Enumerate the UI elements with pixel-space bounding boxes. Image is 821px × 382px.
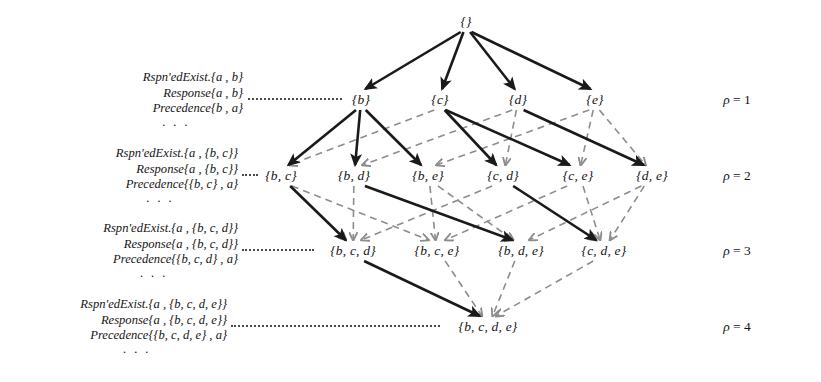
lattice-node-empty-set: {} [460,14,471,30]
constraint-formula-rho-3: Rspn'edExist.{a , {b, c, d}}Response{a ,… [103,221,238,284]
edge-dashed-c-to-bc [290,110,435,165]
edge-dashed-bc-to-bcd [290,186,346,240]
constraint-line: Rspn'edExist.{a , {b, c}} [116,146,238,162]
lattice-node-de: {d, e} [636,168,668,184]
edge-dashed-bd-to-bcd [353,186,354,240]
lattice-node-cd: {c, d} [487,168,519,184]
edge-solid-cd-to-cde [513,186,596,240]
edge-solid-b-to-be [366,110,421,165]
constraint-ellipsis: · · · [80,344,227,361]
edge-solid-b-to-bc [288,110,356,165]
edge-solid-root-to-d [470,32,515,89]
edge-dashed-be-to-bce [430,186,436,240]
constraint-formula-rho-2: Rspn'edExist.{a , {b, c}}Response{a , {b… [116,146,238,209]
constraint-line: Rspn'edExist.{a , {b, c, d, e}} [80,297,227,313]
constraint-line: Rspn'edExist.{a , b} [143,70,243,86]
edge-dashed-d-to-cd [505,110,516,165]
leader-dots-rho-4 [231,325,440,329]
page-bleed-artifact [60,352,63,364]
edge-solid-bc-to-bcd [290,186,346,240]
edge-dashed-e-to-ce [581,110,594,165]
edge-dashed-cde-to-bcde [496,261,593,316]
edge-solid-bcd-to-bcde [364,261,480,316]
constraint-line: Precedence{{b, c, d} , a} [103,252,238,268]
constraint-formula-rho-1: Rspn'edExist.{a , b}Response{a , b}Prece… [143,70,243,133]
rank-label-rho-1: ρ = 1 [723,92,751,108]
lattice-node-cde: {c, d, e} [582,243,627,259]
lattice-figure: {}{b}{c}{d}{e}{b, c}{b, d}{b, e}{c, d}{c… [0,0,821,382]
edge-dashed-e-to-be [437,110,590,165]
constraint-line: Response{a , {b, c, d}} [103,237,238,253]
lattice-node-bcde: {b, c, d, e} [459,319,518,335]
edge-dashed-bde-to-bcde [493,261,515,316]
lattice-node-d: {d} [509,92,527,108]
lattice-node-ce: {c, e} [563,168,594,184]
edge-dashed-cd-to-bcd [362,186,493,240]
constraint-ellipsis: · · · [143,117,243,134]
lattice-node-bd: {b, d} [338,168,370,184]
rank-label-rho-3: ρ = 3 [723,243,751,259]
page-bleed-artifact [22,262,26,278]
constraint-ellipsis: · · · [116,193,238,210]
lattice-node-bc: {b, c} [265,168,297,184]
edge-dashed-cd-to-cde [513,186,596,240]
lattice-node-bcd: {b, c, d} [330,243,376,259]
lattice-node-bce: {b, c, e} [415,243,460,259]
constraint-line: Response{a , {b, c, d, e}} [80,313,227,329]
constraint-ellipsis: · · · [103,268,238,285]
rank-label-rho-4: ρ = 4 [723,319,751,335]
edge-dashed-bc-to-bce [292,186,429,240]
constraint-line: Rspn'edExist.{a , {b, c, d}} [103,221,238,237]
leader-dots-rho-3 [242,249,314,253]
lattice-node-c: {c} [431,92,448,108]
lattice-node-b: {b} [352,92,370,108]
constraint-line: Precedence{{b, c} , a} [116,177,238,193]
edge-solid-c-to-ce [446,110,570,165]
edge-solid-c-to-cd [445,110,497,165]
edge-solid-bd-to-bde [365,186,512,240]
leader-dots-rho-1 [248,98,342,102]
edge-dashed-bd-to-bde [365,186,512,240]
leader-dots-rho-2 [242,174,258,178]
edge-solid-root-to-b [365,32,460,89]
constraint-line: Response{a , {b, c}} [116,162,238,178]
edge-dashed-be-to-bde [438,186,513,240]
lattice-node-be: {b, e} [412,168,444,184]
constraint-line: Precedence{b , a} [143,101,243,117]
lattice-node-bde: {b, d, e} [498,243,544,259]
edge-solid-root-to-c [442,32,463,89]
constraint-line: Response{a , b} [143,86,243,102]
edge-dashed-ce-to-cde [583,186,600,240]
edge-dashed-de-to-bde [529,186,641,240]
lattice-node-e: {e} [586,92,603,108]
rank-label-rho-2: ρ = 2 [723,168,751,184]
edge-solid-d-to-de [524,110,644,165]
edge-dashed-e-to-de [599,110,645,165]
edge-solid-root-to-e [472,32,591,89]
edge-dashed-de-to-cde [610,186,644,240]
edge-dashed-bce-to-bcde [445,261,482,316]
constraint-line: Precedence{{b, c, d, e} , a} [80,328,227,344]
edge-solid-b-to-bd [355,110,360,165]
constraint-formula-rho-4: Rspn'edExist.{a , {b, c, d, e}}Response{… [80,297,227,360]
edge-dashed-ce-to-bce [445,186,567,240]
edge-dashed-d-to-bd [363,110,513,165]
